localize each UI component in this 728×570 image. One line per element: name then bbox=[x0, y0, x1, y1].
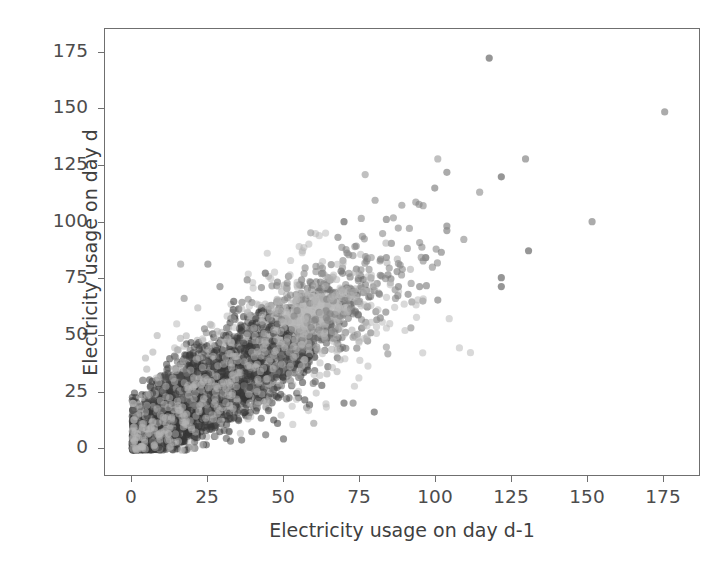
y-tick-label-0: 0 bbox=[26, 438, 88, 458]
y-tick-label-25: 25 bbox=[26, 382, 88, 402]
x-tick-label-100: 100 bbox=[400, 488, 470, 507]
plot-area bbox=[104, 28, 700, 476]
x-tick-mark-150 bbox=[587, 476, 588, 482]
x-tick-label-175: 175 bbox=[628, 488, 698, 507]
y-tick-label-175: 175 bbox=[26, 42, 88, 62]
x-tick-mark-0 bbox=[131, 476, 132, 482]
x-tick-mark-100 bbox=[435, 476, 436, 482]
x-tick-mark-25 bbox=[207, 476, 208, 482]
x-tick-label-25: 25 bbox=[172, 488, 242, 507]
x-tick-label-75: 75 bbox=[324, 488, 394, 507]
scatter-points-layer bbox=[105, 29, 700, 476]
scatter-plot-figure: 175 150 125 100 75 50 25 0 0 25 50 75 10… bbox=[0, 0, 728, 570]
y-tick-label-150: 150 bbox=[26, 98, 88, 118]
x-tick-mark-125 bbox=[511, 476, 512, 482]
x-tick-label-125: 125 bbox=[476, 488, 546, 507]
x-tick-mark-75 bbox=[359, 476, 360, 482]
x-tick-label-150: 150 bbox=[552, 488, 622, 507]
y-axis-title: Electricity usage on day d bbox=[81, 28, 100, 478]
x-axis-title: Electricity usage on day d-1 bbox=[104, 521, 700, 540]
x-tick-label-50: 50 bbox=[248, 488, 318, 507]
x-tick-label-0: 0 bbox=[96, 488, 166, 507]
x-tick-mark-50 bbox=[283, 476, 284, 482]
x-tick-mark-175 bbox=[663, 476, 664, 482]
